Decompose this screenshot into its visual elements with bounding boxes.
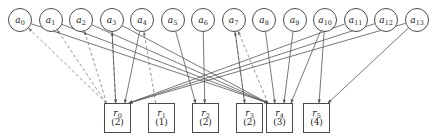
agent-label: a9 xyxy=(290,16,299,25)
agent-node-a1: a1 xyxy=(39,8,63,32)
agent-label: a12 xyxy=(379,16,392,25)
agent-label: a0 xyxy=(15,16,24,25)
agent-node-a6: a6 xyxy=(191,8,215,32)
agent-label: a10 xyxy=(318,16,331,25)
agent-node-a12: a12 xyxy=(374,8,398,32)
agent-node-a7: a7 xyxy=(222,8,246,32)
resource-node-r0: r0(2) xyxy=(104,103,131,133)
resource-node-r3: r3(2) xyxy=(236,103,263,133)
resource-node-r4: r4(3) xyxy=(266,103,293,133)
resource-node-r1: r1(1) xyxy=(148,103,175,133)
agent-node-a0: a0 xyxy=(8,8,32,32)
resource-node-r2: r2(2) xyxy=(192,103,219,133)
agent-label: a5 xyxy=(168,16,177,25)
agent-node-a8: a8 xyxy=(252,8,276,32)
agent-node-a11: a11 xyxy=(344,8,368,32)
agent-node-a2: a2 xyxy=(69,8,93,32)
agent-label: a3 xyxy=(107,16,116,25)
agent-label: a7 xyxy=(229,16,238,25)
agent-label: a1 xyxy=(46,16,55,25)
bipartite-graph-figure: a0a1a2a3a4a5a6a7a8a9a10a11a12a13 r0(2)r1… xyxy=(0,0,442,137)
agent-label: a13 xyxy=(410,16,423,25)
agent-node-a9: a9 xyxy=(283,8,307,32)
agent-node-a4: a4 xyxy=(130,8,154,32)
agent-node-a3: a3 xyxy=(100,8,124,32)
agent-label: a2 xyxy=(76,16,85,25)
agent-label: a8 xyxy=(259,16,268,25)
agent-label: a6 xyxy=(198,16,207,25)
agent-label: a4 xyxy=(137,16,146,25)
agent-node-a13: a13 xyxy=(405,8,429,32)
agent-node-a5: a5 xyxy=(161,8,185,32)
node-layer: a0a1a2a3a4a5a6a7a8a9a10a11a12a13 r0(2)r1… xyxy=(0,0,442,137)
agent-label: a11 xyxy=(349,16,362,25)
agent-node-a10: a10 xyxy=(313,8,337,32)
resource-node-r5: r5(4) xyxy=(303,103,330,133)
